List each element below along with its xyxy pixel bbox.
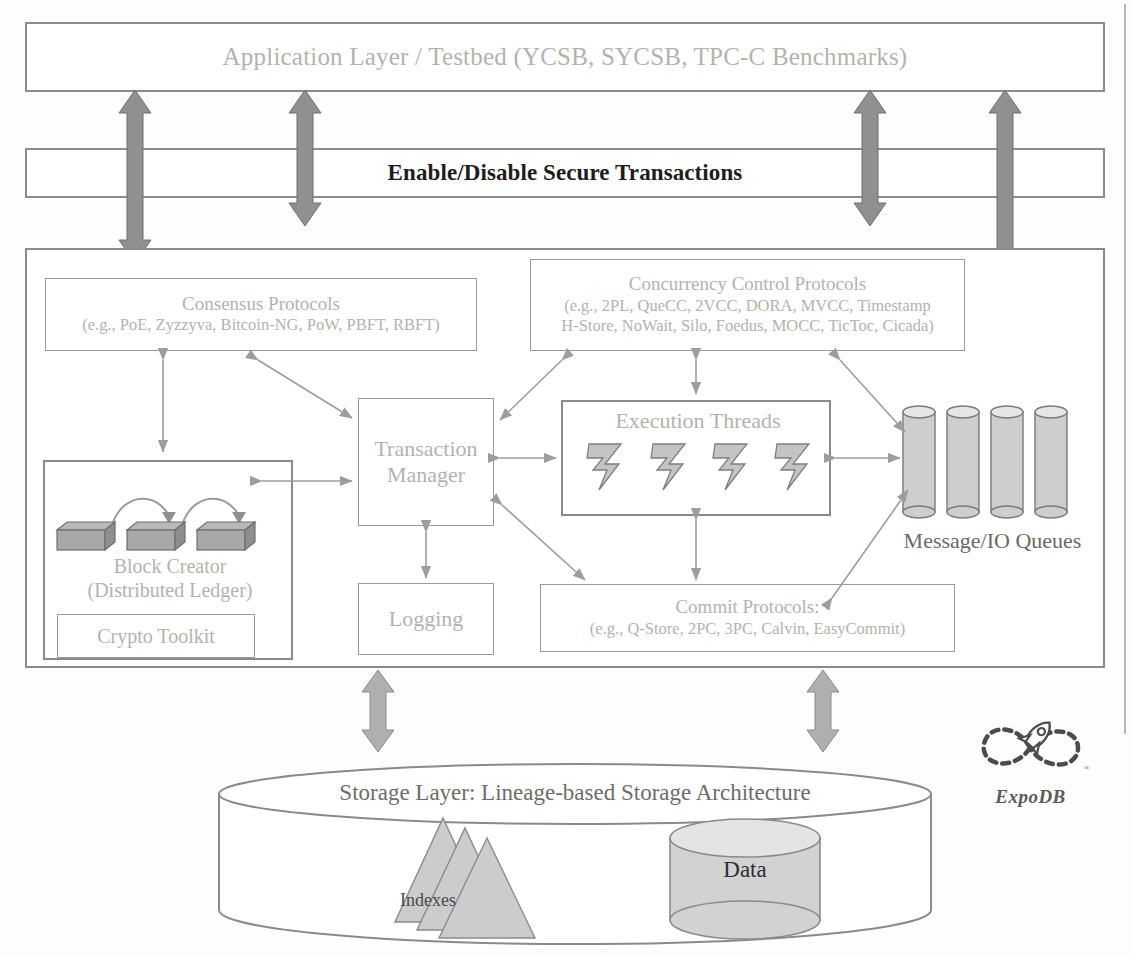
diagram-canvas: Application Layer / Testbed (YCSB, SYCSB… bbox=[0, 0, 1133, 955]
storage-layer-label: Storage Layer: Lineage-based Storage Arc… bbox=[215, 780, 935, 806]
block-arrow-main-to-storage-1 bbox=[362, 670, 394, 752]
arrow-consensus-txnmanager bbox=[258, 360, 352, 418]
block-arrow-main-to-storage-2 bbox=[807, 670, 839, 752]
registered-mark: ® bbox=[1084, 764, 1090, 772]
arrow-concurrency-txnmanager bbox=[500, 360, 562, 420]
infinity-rocket-icon: ® bbox=[968, 710, 1093, 786]
arrow-concurrency-queues bbox=[840, 360, 905, 432]
indexes-label: Indexes bbox=[400, 890, 456, 911]
expodb-logo: ® ExpoDB bbox=[968, 710, 1093, 810]
expodb-wordmark: ExpoDB bbox=[968, 786, 1093, 808]
data-label: Data bbox=[670, 857, 820, 883]
arrow-commit-queues bbox=[832, 490, 908, 598]
arrow-txnmanager-commit bbox=[502, 505, 585, 580]
